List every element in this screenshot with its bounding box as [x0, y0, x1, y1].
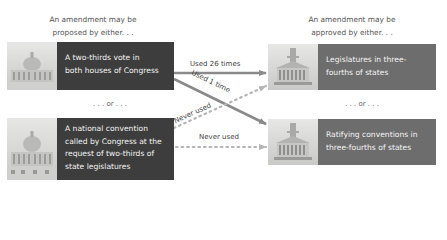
arrow-never-used-diagonal: [174, 86, 266, 128]
ratification-box-conventions: Ratifying conventions in three-fourths o…: [318, 119, 436, 165]
us-capitol-image-bottom: [7, 118, 57, 180]
label-used-26-times: Used 26 times: [190, 60, 240, 68]
ratification-legislatures-line-1: Legislatures in three-: [326, 54, 436, 67]
us-capitol-icon: [7, 118, 57, 180]
ratification-box-state-legislatures: Legislatures in three- fourths of states: [318, 44, 436, 90]
proposal-congress-line-2: both houses of Congress: [65, 65, 174, 78]
proposal-convention-line-2: called by Congress at the: [65, 136, 174, 149]
state-capitol-image-top: [268, 44, 318, 90]
proposal-box-congress-vote: A two-thirds vote in both houses of Cong…: [57, 42, 174, 90]
or-separator-right: . . . or . . .: [322, 100, 402, 108]
ratification-conventions-line-2: three-fourths of states: [326, 142, 436, 155]
us-capitol-icon: [7, 42, 57, 90]
state-capitol-icon: [268, 44, 318, 90]
proposal-congress-line-1: A two-thirds vote in: [65, 52, 174, 65]
proposal-convention-line-3: request of two-thirds of: [65, 148, 174, 161]
ratification-legislatures-line-2: fourths of states: [326, 67, 436, 80]
or-separator-left: . . . or . . .: [70, 100, 150, 108]
ratification-conventions-line-1: Ratifying conventions in: [326, 129, 436, 142]
proposal-convention-line-4: state legislatures: [65, 161, 174, 174]
label-never-used-horizontal: Never used: [199, 133, 239, 141]
us-capitol-image-top: [7, 42, 57, 90]
state-capitol-icon: [268, 119, 318, 165]
proposal-box-national-convention: A national convention called by Congress…: [57, 118, 174, 180]
state-capitol-image-bottom: [268, 119, 318, 165]
proposal-convention-line-1: A national convention: [65, 123, 174, 136]
